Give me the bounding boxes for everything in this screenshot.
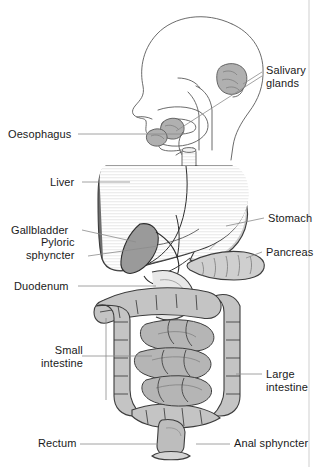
- anal-sphyncter-ring: [152, 452, 190, 460]
- si-coil-2: [134, 348, 211, 380]
- label-small-intestine: Small intestine: [41, 344, 83, 369]
- label-salivary-glands: Salivary glands: [266, 64, 306, 89]
- digestive-system-figure: Oesophagus Liver Gallbladder Pyloric sph…: [0, 0, 322, 467]
- rectum-body: [157, 420, 185, 457]
- label-duodenum: Duodenum: [14, 280, 69, 293]
- label-anal-sphyncter: Anal sphyncter: [234, 437, 308, 450]
- label-rectum: Rectum: [38, 437, 77, 450]
- label-oesophagus: Oesophagus: [8, 128, 71, 141]
- label-stomach: Stomach: [268, 212, 312, 225]
- parotid-gland: [217, 64, 247, 95]
- sublingual-gland: [146, 129, 167, 146]
- label-large-intestine: Large intestine: [266, 368, 308, 393]
- small-intestine: [134, 320, 213, 406]
- label-pancreas: Pancreas: [266, 246, 313, 259]
- si-coil-3: [142, 376, 212, 406]
- label-liver: Liver: [50, 176, 74, 189]
- label-pyloric-sphyncter: Pyloric sphyncter: [26, 236, 75, 261]
- label-gallbladder: Gallbladder: [11, 224, 68, 237]
- oesophagus-top-rim: [182, 148, 196, 153]
